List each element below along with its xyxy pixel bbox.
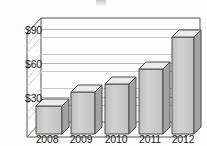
y-axis-labels: $90 $60 $30 bbox=[0, 0, 42, 146]
bar-2011 bbox=[139, 62, 170, 134]
bar-2010 bbox=[105, 77, 136, 134]
x-tick-2008: 2008 bbox=[30, 133, 64, 145]
y-tick-60: $60 bbox=[8, 58, 42, 70]
x-tick-2009: 2009 bbox=[64, 133, 98, 145]
bar-2012 bbox=[172, 30, 201, 134]
bar-2009 bbox=[71, 85, 102, 134]
y-tick-30: $30 bbox=[8, 92, 42, 104]
y-tick-90: $90 bbox=[8, 24, 42, 36]
x-tick-2011: 2011 bbox=[133, 133, 167, 145]
bar-chart: $90 $60 $30 2008 2009 2010 2011 2012 bbox=[0, 0, 207, 146]
x-tick-2010: 2010 bbox=[99, 133, 133, 145]
x-tick-2012: 2012 bbox=[166, 133, 200, 145]
